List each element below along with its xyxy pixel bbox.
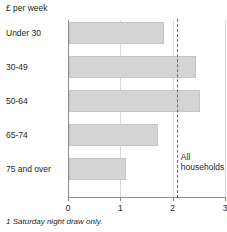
category-label: 65-74 xyxy=(6,130,68,140)
category-label: 75 and over xyxy=(6,164,68,174)
x-tick-label: 3 xyxy=(223,203,227,213)
plot-area: Allhouseholds 0123 xyxy=(68,20,225,197)
category-label: 30-49 xyxy=(6,62,68,72)
gridline-3 xyxy=(225,20,226,197)
reference-label-line2: households xyxy=(181,163,224,173)
tick-mark-1 xyxy=(120,197,121,201)
footnote: 1 Saturday night draw only. xyxy=(6,217,102,227)
category-label: Under 30 xyxy=(6,28,68,38)
x-tick-label: 2 xyxy=(170,203,175,213)
reference-line-all-households xyxy=(177,19,178,198)
tick-mark-2 xyxy=(173,197,174,201)
x-axis-line xyxy=(68,197,226,198)
bar-chart: £ per week Allhouseholds 0123 Under 3030… xyxy=(0,0,227,232)
bar xyxy=(69,124,158,146)
tick-mark-0 xyxy=(68,197,69,201)
bar xyxy=(69,22,164,44)
category-label: 50-64 xyxy=(6,96,68,106)
bar xyxy=(69,90,200,112)
bar xyxy=(69,158,126,180)
axis-title: £ per week xyxy=(6,3,48,13)
x-tick-label: 0 xyxy=(66,203,71,213)
tick-mark-3 xyxy=(225,197,226,201)
x-tick-label: 1 xyxy=(118,203,123,213)
reference-label-all-households: Allhouseholds xyxy=(181,153,224,172)
